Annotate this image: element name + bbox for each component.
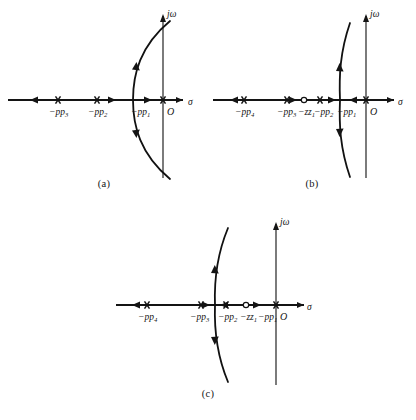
locus-branch-upper-c — [215, 228, 228, 305]
real-axis-arrow-left-c — [132, 302, 140, 309]
panel-caption-a: (a) — [0, 178, 208, 189]
locus-branch-upper-a — [133, 21, 170, 100]
sigma-axis-arrow-a — [176, 97, 183, 103]
origin-label-a: O — [167, 106, 174, 117]
pole-label-p1-c: −pp1 — [258, 312, 277, 323]
real-axis-arrow-right-b — [349, 97, 357, 104]
pole-label-p2-a: −pp2 — [88, 107, 108, 118]
sigma-axis-arrow-b — [387, 97, 394, 103]
imaginary-axis-b — [363, 14, 369, 178]
real-axis-arrow-left-b — [230, 97, 238, 104]
jomega-axis-arrow-b — [363, 14, 369, 22]
jomega-label-c: jω — [278, 217, 290, 227]
pole-label-p4-c: −pp4 — [138, 312, 158, 323]
root-locus-panel-a: −pp3 −pp2 −pp1 O σ jω (a) — [0, 0, 208, 210]
sigma-axis-arrow-c — [297, 302, 304, 308]
real-axis-arrow-breakaway-b — [328, 97, 336, 104]
locus-branch-upper-b — [340, 23, 350, 100]
panel-caption-c: (c) — [104, 388, 312, 399]
sigma-label-c: σ — [307, 302, 312, 312]
jomega-axis-arrow-a — [160, 14, 166, 22]
real-axis-arrow-right-a — [144, 97, 152, 104]
real-axis-arrow-mid-a — [108, 97, 116, 104]
root-locus-figure-sheet: −pp3 −pp2 −pp1 O σ jω (a) — [0, 0, 416, 420]
real-axis-arrow-left-a — [30, 97, 38, 104]
zero-marker-z1-b — [301, 97, 306, 102]
real-axis-arrow-mid-b — [289, 97, 297, 104]
root-locus-panel-c: −pp4 −pp3 −pp2 −zz1 −pp1 O σ jω (c) — [104, 210, 312, 420]
sigma-label-a: σ — [188, 97, 193, 107]
imaginary-axis-c — [273, 222, 279, 385]
pole-label-p2-b: −pp2 — [314, 107, 334, 118]
real-axis-arrow-right-c — [253, 302, 261, 309]
origin-label-c: O — [280, 311, 287, 322]
pole-label-p3-a: −pp3 — [49, 107, 69, 118]
origin-label-b: O — [370, 106, 377, 117]
locus-arrow-lower-b — [336, 129, 344, 137]
jomega-axis-arrow-c — [273, 222, 279, 230]
sigma-label-b: σ — [398, 97, 403, 107]
zero-label-z1-c: −zz1 — [240, 312, 257, 323]
pole-label-p2-c: −pp2 — [218, 312, 238, 323]
jomega-label-b: jω — [368, 9, 380, 19]
pole-label-p1-b: −pp1 — [337, 107, 356, 118]
locus-arrow-upper-b — [336, 63, 344, 71]
root-locus-panel-b: −pp4 −pp3 −zz1 −pp2 −pp1 O σ jω (b) — [208, 0, 416, 210]
panel-caption-b: (b) — [208, 178, 416, 189]
pole-label-p3-c: −pp3 — [190, 312, 210, 323]
zero-label-z1-b: −zz1 — [298, 107, 315, 118]
zero-marker-z1-c — [243, 302, 248, 307]
pole-label-p4-b: −pp4 — [235, 107, 255, 118]
pole-label-p1-a: −pp1 — [131, 107, 150, 118]
imaginary-axis-a — [160, 14, 166, 178]
jomega-label-a: jω — [165, 9, 177, 19]
pole-label-p3-b: −pp3 — [277, 107, 297, 118]
